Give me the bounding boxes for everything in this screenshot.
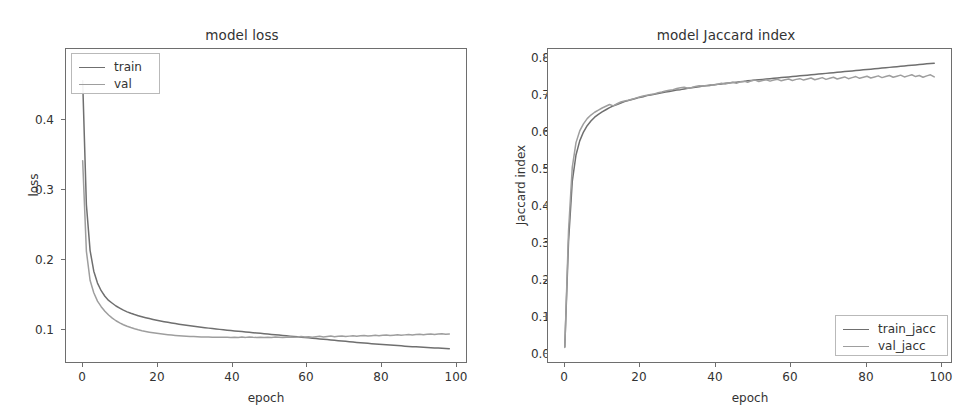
y-tick-label: 0.6 [504, 125, 550, 139]
x-tick-label: 0 [544, 370, 584, 384]
y-tick-label: 0.1 [8, 323, 54, 337]
y-tick-label: 0.3 [504, 236, 550, 250]
y-tick-label: 0.0 [504, 347, 550, 361]
legend-line-swatch-train-jacc [843, 329, 869, 330]
legend-label-train: train [114, 59, 142, 76]
series-line-val_jacc [565, 75, 934, 348]
legend-loss[interactable]: train val [71, 53, 160, 94]
legend-line-swatch-train [79, 67, 105, 68]
plot-area-loss [65, 48, 467, 363]
legend-jaccard[interactable]: train_jacc val_jacc [835, 315, 948, 356]
y-tick-label: 0.4 [8, 113, 54, 127]
legend-line-swatch-val [79, 84, 105, 85]
loss-curves [66, 49, 466, 362]
legend-label-val: val [114, 76, 132, 93]
x-tick-mark [232, 363, 233, 367]
legend-line-swatch-val-jacc [843, 346, 869, 347]
x-tick-label: 20 [619, 370, 659, 384]
x-tick-label: 80 [846, 370, 886, 384]
x-tick-label: 0 [62, 370, 102, 384]
legend-entry-val-jacc[interactable]: val_jacc [843, 338, 939, 355]
panel-model-loss: model loss loss 0.1 0.2 0.3 0.4 0 20 40 … [0, 0, 484, 418]
x-tick-label: 20 [137, 370, 177, 384]
x-tick-label: 60 [286, 370, 326, 384]
y-tick-label: 0.2 [504, 273, 550, 287]
x-tick-mark [306, 363, 307, 367]
figure-canvas: model loss loss 0.1 0.2 0.3 0.4 0 20 40 … [0, 0, 968, 418]
chart-title-loss: model loss [0, 27, 484, 43]
legend-label-val-jacc: val_jacc [878, 338, 926, 355]
x-tick-mark [456, 363, 457, 367]
y-tick-label: 0.5 [504, 162, 550, 176]
chart-title-jaccard: model Jaccard index [484, 27, 968, 43]
legend-entry-val[interactable]: val [79, 76, 151, 93]
y-tick-label: 0.7 [504, 88, 550, 102]
y-tick-label: 0.3 [8, 183, 54, 197]
x-tick-label: 40 [212, 370, 252, 384]
x-axis-label-loss: epoch [166, 391, 366, 405]
legend-label-train-jacc: train_jacc [878, 321, 936, 338]
panel-model-jaccard-index: model Jaccard index Jaccard index 0.0 0.… [484, 0, 968, 418]
x-tick-mark [381, 363, 382, 367]
series-line-train_jacc [565, 63, 934, 347]
x-tick-mark [866, 363, 867, 367]
legend-entry-train[interactable]: train [79, 59, 151, 76]
series-line-val [83, 161, 450, 338]
y-tick-label: 0.4 [504, 199, 550, 213]
legend-entry-train-jacc[interactable]: train_jacc [843, 321, 939, 338]
x-tick-label: 80 [361, 370, 401, 384]
y-tick-label: 0.8 [504, 51, 550, 65]
y-tick-label: 0.2 [8, 253, 54, 267]
x-tick-mark [941, 363, 942, 367]
y-tick-label: 0.1 [504, 310, 550, 324]
x-tick-label: 100 [921, 370, 961, 384]
x-tick-mark [564, 363, 565, 367]
x-tick-mark [82, 363, 83, 367]
x-tick-mark [639, 363, 640, 367]
x-tick-label: 100 [436, 370, 476, 384]
x-tick-mark [157, 363, 158, 367]
x-tick-label: 60 [770, 370, 810, 384]
series-line-train [83, 81, 450, 349]
x-tick-label: 40 [695, 370, 735, 384]
x-tick-mark [790, 363, 791, 367]
x-axis-label-jaccard: epoch [650, 391, 850, 405]
x-tick-mark [715, 363, 716, 367]
